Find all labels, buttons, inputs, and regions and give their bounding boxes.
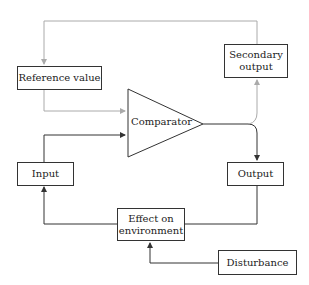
input-box: Input — [17, 162, 74, 186]
disturbance-box: Disturbance — [218, 250, 297, 275]
reference-value-box: Reference value — [17, 66, 102, 90]
secondary-output-box: Secondary output — [224, 44, 288, 78]
secondary-output-label-line2: output — [239, 61, 272, 73]
connector-lines — [0, 0, 309, 285]
comparator-label: Comparator — [131, 116, 192, 127]
output-box: Output — [227, 162, 284, 186]
disturbance-label: Disturbance — [227, 257, 289, 269]
edge-reference-to-comparator — [44, 89, 125, 111]
edge-comparator-to-secondary — [249, 80, 257, 124]
edge-comparator-to-output — [203, 124, 257, 160]
edge-output-to-effect — [184, 186, 257, 224]
input-label: Input — [32, 168, 59, 180]
effect-on-environment-box: Effect on environment — [117, 208, 185, 241]
reference-value-label: Reference value — [18, 72, 100, 84]
output-label: Output — [238, 168, 274, 180]
effect-label-line2: environment — [119, 225, 183, 237]
edge-disturbance-to-effect — [150, 243, 218, 263]
secondary-output-label-line1: Secondary — [229, 49, 283, 61]
effect-label-line1: Effect on — [128, 213, 174, 225]
edge-input-to-comparator — [44, 135, 125, 162]
edge-effect-to-input — [44, 187, 117, 224]
